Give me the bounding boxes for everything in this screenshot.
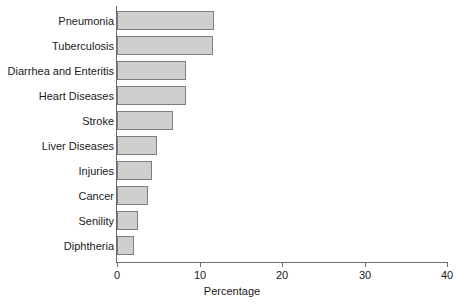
bar-diarrhea-and-enteritis [117,61,186,80]
category-label-diarrhea-and-enteritis: Diarrhea and Enteritis [8,65,114,77]
category-label-heart-diseases: Heart Diseases [39,90,114,102]
bar-chart: Pneumonia Tuberculosis Diarrhea and Ente… [0,0,461,304]
x-tick-label-4: 40 [427,269,461,281]
bar-cancer [117,186,148,205]
x-tick-label-1: 10 [180,269,220,281]
bar-diphtheria [117,236,134,255]
category-label-pneumonia: Pneumonia [58,15,114,27]
x-tick-2 [282,262,283,267]
category-label-stroke: Stroke [82,115,114,127]
category-label-cancer: Cancer [79,190,114,202]
category-label-tuberculosis: Tuberculosis [52,40,114,52]
bar-heart-diseases [117,86,186,105]
category-label-injuries: Injuries [79,165,114,177]
bar-stroke [117,111,173,130]
bar-pneumonia [117,11,214,30]
x-tick-0 [117,262,118,267]
bar-senility [117,211,138,230]
x-tick-label-0: 0 [97,269,137,281]
bar-tuberculosis [117,36,213,55]
x-tick-1 [200,262,201,267]
category-label-senility: Senility [79,215,114,227]
x-axis-title: Percentage [182,285,282,297]
x-tick-4 [447,262,448,267]
category-label-liver-diseases: Liver Diseases [42,140,114,152]
x-tick-3 [365,262,366,267]
category-label-diphtheria: Diphtheria [64,240,114,252]
x-tick-label-3: 30 [345,269,385,281]
x-tick-label-2: 20 [262,269,302,281]
bar-liver-diseases [117,136,157,155]
y-axis-line [116,6,117,262]
bar-injuries [117,161,152,180]
